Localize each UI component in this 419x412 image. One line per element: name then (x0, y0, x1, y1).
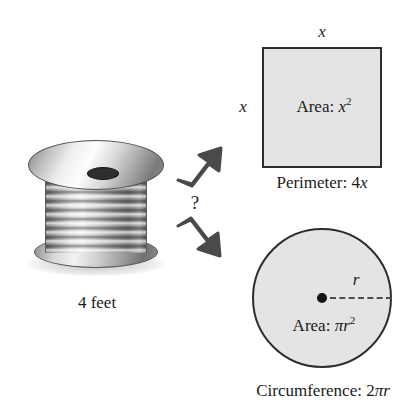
figure-canvas: 4 feet ? x x Area: x2 Perimeter: 4x r Ar… (0, 0, 419, 412)
square-perimeter-label: Perimeter: 4x (242, 172, 402, 194)
circle-area-exponent: 2 (350, 314, 356, 326)
circle-circumference-prefix: Circumference: (256, 381, 366, 400)
spool-length-caption: 4 feet (22, 292, 172, 314)
circle-circumference-label: Circumference: 2πr (232, 380, 414, 402)
circle-radius-dashed-line (330, 297, 392, 299)
circle-area-base: r (343, 316, 350, 335)
question-mark-label: ? (183, 192, 207, 214)
square-area-exponent: 2 (346, 95, 352, 107)
square-area-label: Area: x2 (264, 97, 384, 117)
spool-of-wire-illustration (22, 132, 172, 292)
circle-center-point (317, 293, 327, 303)
circle-area-prefix: Area: (293, 316, 335, 335)
circle-circumference-value: 2 (366, 381, 375, 400)
square-perimeter-value: 4 (352, 173, 361, 192)
square-area-base: x (338, 97, 346, 116)
circle-area-label: Area: πr2 (254, 316, 394, 336)
circle-circumference-variable: r (383, 381, 390, 400)
square-top-side-label: x (262, 22, 382, 42)
circle-area-pi: π (335, 316, 344, 335)
square-perimeter-prefix: Perimeter: (276, 173, 351, 192)
circle-shape: r Area: πr2 (252, 228, 392, 368)
spool-center-hole (87, 167, 119, 180)
circle-radius-label: r (346, 270, 366, 290)
square-perimeter-variable: x (360, 173, 368, 192)
square-left-side-label: x (233, 97, 253, 117)
arrow-down-right-icon (176, 216, 228, 264)
circle-circumference-pi: π (375, 381, 384, 400)
square-shape: Area: x2 (262, 47, 382, 168)
square-area-prefix: Area: (296, 97, 338, 116)
spool-top-flange (28, 140, 164, 190)
arrow-up-right-icon (176, 146, 226, 192)
